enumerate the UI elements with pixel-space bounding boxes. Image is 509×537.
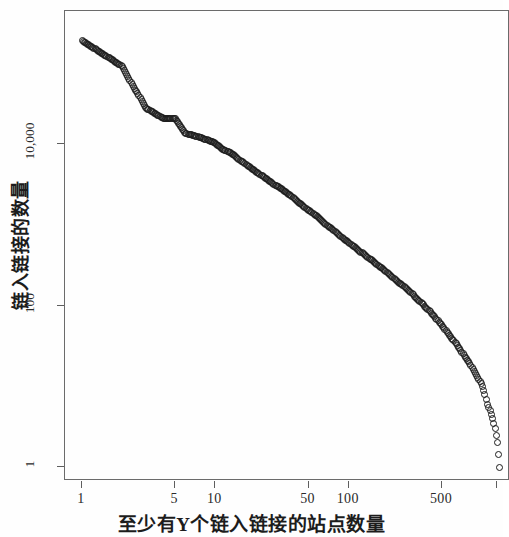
plot-frame: [64, 10, 509, 480]
x-axis-tick-label: 1: [77, 491, 84, 507]
x-axis-tick: [348, 481, 349, 488]
x-axis-tick-label: 5: [171, 491, 178, 507]
x-axis-tick: [81, 481, 82, 488]
data-point-marker: [483, 396, 490, 403]
x-axis-tick: [441, 481, 442, 488]
x-axis-tick: [308, 481, 309, 488]
x-axis-title: 至少有Y个链入链接的站点数量: [0, 509, 503, 536]
plot-area: [65, 11, 508, 479]
x-axis-tick-label: 10: [207, 491, 222, 507]
x-axis-tick-label: 500: [430, 491, 452, 507]
data-point-marker: [494, 439, 501, 446]
y-axis-tick-label-text: 100: [22, 273, 38, 333]
data-point-marker: [496, 464, 503, 471]
data-point-marker: [495, 451, 502, 458]
data-point-marker: [493, 432, 500, 439]
data-point-marker: [480, 387, 487, 394]
x-axis-tick: [214, 481, 215, 488]
x-axis-tick: [174, 481, 175, 488]
y-axis-tick-label-text: 10,000: [22, 111, 38, 171]
x-axis-tick-label: 100: [337, 491, 359, 507]
y-axis-tick: [57, 305, 64, 306]
y-axis-tick: [57, 466, 64, 467]
x-axis-tick-label: 50: [300, 491, 315, 507]
y-axis-tick: [57, 143, 64, 144]
x-axis-tick: [496, 481, 497, 488]
y-axis-title: 链入链接的数量: [4, 0, 34, 490]
data-point-marker: [488, 411, 495, 418]
y-axis-tick-label-text: 1: [22, 434, 38, 494]
